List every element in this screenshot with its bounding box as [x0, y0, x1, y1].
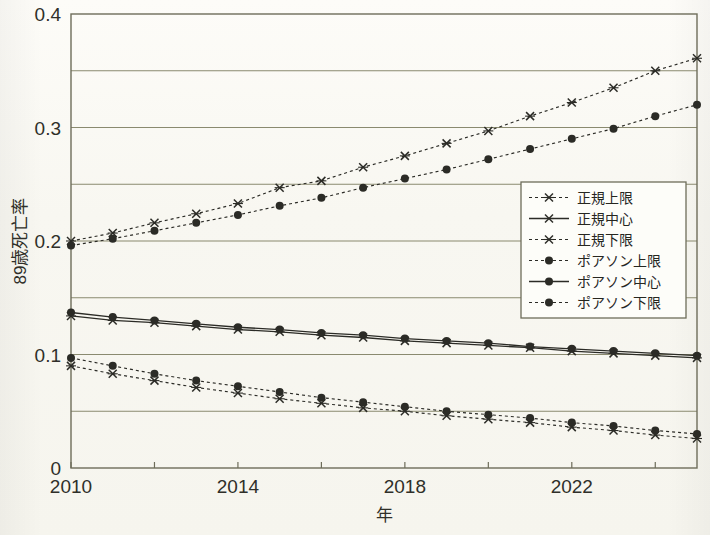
circle-marker: [568, 135, 576, 143]
series-line: [71, 358, 697, 434]
series-5: [67, 354, 701, 438]
y-tick-label: 0.3: [35, 118, 61, 139]
circle-marker: [192, 377, 200, 385]
circle-marker: [109, 235, 117, 243]
circle-marker: [234, 323, 242, 331]
circle-marker: [651, 349, 659, 357]
circle-marker: [484, 155, 492, 163]
circle-marker: [109, 362, 117, 370]
circle-marker: [359, 331, 367, 339]
circle-marker: [545, 257, 553, 265]
circle-marker: [276, 388, 284, 396]
circle-marker: [545, 278, 553, 286]
cross-marker: [191, 383, 201, 391]
circle-marker: [192, 219, 200, 227]
circle-marker: [192, 320, 200, 328]
circle-marker: [526, 414, 534, 422]
cross-marker: [108, 370, 118, 378]
circle-marker: [693, 430, 701, 438]
circle-marker: [234, 211, 242, 219]
circle-marker: [651, 112, 659, 120]
circle-marker: [401, 175, 409, 183]
cross-marker: [191, 210, 201, 218]
circle-marker: [150, 370, 158, 378]
circle-marker: [67, 354, 75, 362]
circle-marker: [443, 166, 451, 174]
circle-marker: [693, 352, 701, 360]
cross-marker: [316, 177, 326, 185]
chart-figure: 0.40.30.20.10 2010201420182022 89歳死亡率年 正…: [0, 0, 710, 535]
legend-label: ポアソン上限: [577, 253, 661, 269]
circle-marker: [526, 343, 534, 351]
cross-marker: [400, 152, 410, 160]
circle-marker: [401, 403, 409, 411]
y-tick-label: 0.1: [35, 345, 61, 366]
x-tick-label: 2014: [217, 476, 260, 497]
x-tick-label: 2018: [384, 476, 426, 497]
cross-marker: [275, 184, 285, 192]
x-axis-ticks: [71, 462, 655, 468]
circle-marker: [443, 407, 451, 415]
circle-marker: [276, 326, 284, 334]
series-line: [71, 366, 697, 439]
legend-label: ポアソン下限: [577, 295, 661, 311]
circle-marker: [150, 227, 158, 235]
circle-marker: [568, 345, 576, 353]
circle-marker: [484, 339, 492, 347]
x-axis-tick-labels: 2010201420182022: [50, 476, 593, 497]
y-axis-title: 89歳死亡率: [11, 198, 30, 285]
legend-label: 正規下限: [577, 232, 633, 248]
circle-marker: [67, 242, 75, 250]
legend-label: 正規中心: [577, 211, 633, 227]
cross-marker: [442, 139, 452, 147]
cross-marker: [149, 219, 159, 227]
y-tick-label: 0.4: [35, 4, 62, 25]
circle-marker: [610, 125, 618, 133]
x-tick-label: 2010: [50, 476, 92, 497]
circle-marker: [401, 335, 409, 343]
circle-marker: [443, 337, 451, 345]
cross-marker: [483, 127, 493, 135]
circle-marker: [67, 309, 75, 317]
series-2: [66, 362, 702, 443]
cross-marker: [567, 99, 577, 107]
x-tick-label: 2022: [551, 476, 593, 497]
circle-marker: [317, 329, 325, 337]
cross-marker: [275, 395, 285, 403]
cross-marker: [609, 84, 619, 92]
circle-marker: [545, 299, 553, 307]
circle-marker: [150, 316, 158, 324]
circle-marker: [276, 202, 284, 210]
circle-marker: [317, 194, 325, 202]
circle-marker: [568, 419, 576, 427]
cross-marker: [358, 163, 368, 171]
circle-marker: [610, 422, 618, 430]
cross-marker: [650, 67, 660, 75]
series-line: [71, 313, 697, 356]
legend-label: ポアソン中心: [577, 274, 661, 290]
cross-marker: [233, 389, 243, 397]
y-tick-label: 0.2: [35, 231, 61, 252]
cross-marker: [233, 200, 243, 208]
circle-marker: [109, 313, 117, 321]
cross-marker: [525, 112, 535, 120]
circle-marker: [359, 398, 367, 406]
y-axis-tick-labels: 0.40.30.20.10: [35, 4, 62, 479]
circle-marker: [484, 411, 492, 419]
chart-legend[interactable]: 正規上限正規中心正規下限ポアソン上限ポアソン中心ポアソン下限: [521, 182, 686, 318]
line-chart: 0.40.30.20.10 2010201420182022 89歳死亡率年 正…: [0, 0, 710, 535]
circle-marker: [693, 101, 701, 109]
circle-marker: [359, 184, 367, 192]
circle-marker: [317, 394, 325, 402]
x-axis-title: 年: [376, 506, 393, 525]
circle-marker: [610, 347, 618, 355]
circle-marker: [526, 145, 534, 153]
legend-label: 正規上限: [577, 190, 633, 206]
cross-marker: [149, 377, 159, 385]
circle-marker: [651, 427, 659, 435]
circle-marker: [234, 382, 242, 390]
